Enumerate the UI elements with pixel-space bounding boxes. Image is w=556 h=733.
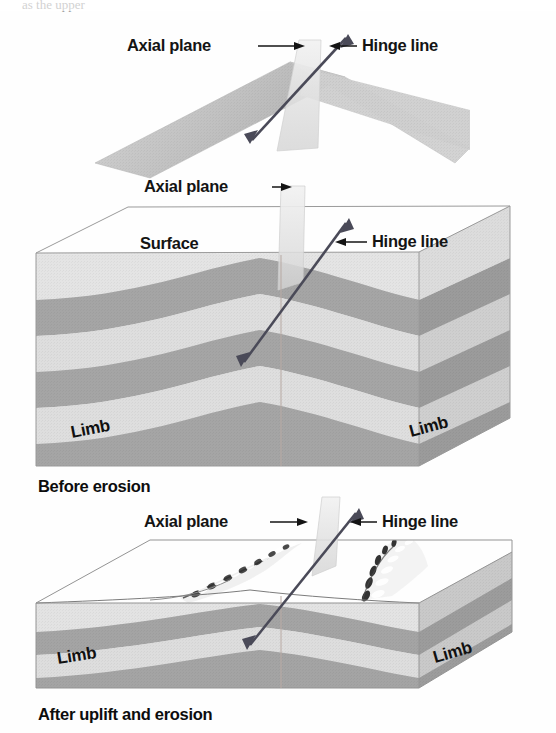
label-axial-plane-middle: Axial plane bbox=[144, 177, 228, 195]
top-crop-mask bbox=[0, 0, 556, 11]
label-hinge-line-bottom: Hinge line bbox=[382, 512, 458, 530]
label-axial-plane-bottom: Axial plane bbox=[144, 512, 228, 530]
leader-axial-plane-bottom bbox=[270, 518, 308, 526]
label-hinge-line-middle: Hinge line bbox=[372, 232, 448, 250]
panel-top: Axial plane Hinge line bbox=[95, 34, 470, 178]
panel-bottom: Axial plane Hinge line Limb Limb After u… bbox=[30, 497, 520, 723]
panel-middle: Axial plane Hinge line Surface Limb Limb… bbox=[30, 177, 520, 495]
bottom-surface-trace bbox=[36, 590, 419, 603]
axial-plane-middle bbox=[278, 186, 305, 290]
fold-diagram: as the upper Axial plane Hinge line bbox=[0, 0, 556, 733]
fold-sheet-right-plate-texture bbox=[300, 70, 470, 150]
label-axial-plane-top: Axial plane bbox=[127, 36, 211, 54]
erosion-ridge-right bbox=[360, 538, 428, 603]
caption-before-erosion: Before erosion bbox=[38, 477, 150, 495]
figure-stage: as the upper Axial plane Hinge line bbox=[0, 0, 556, 733]
leader-hinge-line-middle bbox=[335, 238, 367, 246]
label-surface-middle: Surface bbox=[140, 234, 199, 252]
label-hinge-line-top: Hinge line bbox=[362, 36, 438, 54]
caption-after-uplift-and-erosion: After uplift and erosion bbox=[38, 705, 213, 723]
